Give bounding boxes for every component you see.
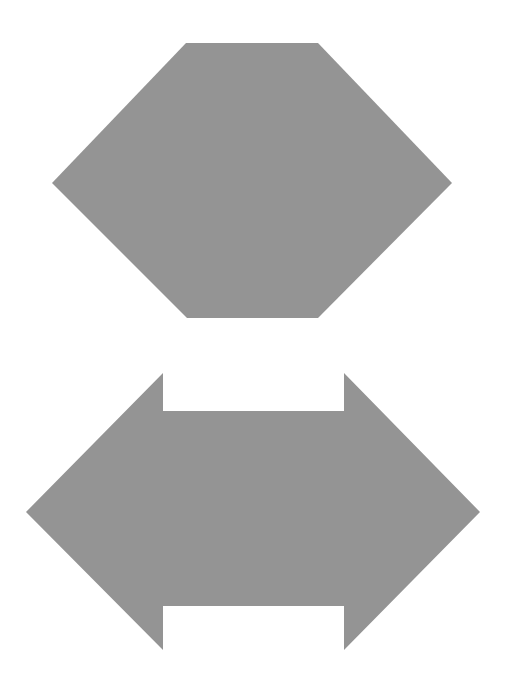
shapes-svg [0,0,507,677]
figure-canvas [0,0,507,677]
